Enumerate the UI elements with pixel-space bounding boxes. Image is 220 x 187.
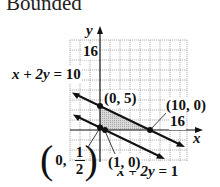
equation-eq: = <box>53 66 62 82</box>
point-label-10-0: (10, 0) <box>166 97 206 114</box>
equation-eq: = <box>158 163 167 179</box>
equation-lhs: x + 2y <box>12 66 50 82</box>
point-1-0 <box>102 127 108 133</box>
y-axis-label: y <box>86 22 93 39</box>
y-tick-label: 16 <box>82 43 99 60</box>
x-axis-label: x <box>193 130 201 147</box>
point-label-0-half: ( 0, 1 2 ) <box>40 140 98 180</box>
equation-label-10: x + 2y = 10 <box>12 66 81 83</box>
point-label-1-0: (1, 0) <box>108 154 141 171</box>
fraction-numerator: 1 <box>76 144 84 160</box>
equation-rhs: 1 <box>171 163 179 179</box>
x-tick-label: 16 <box>169 113 186 130</box>
fraction-denominator: 2 <box>76 161 84 177</box>
point-label-0-5: (0, 5) <box>104 90 137 107</box>
point-0-5 <box>97 103 103 109</box>
equation-rhs: 10 <box>66 66 81 82</box>
point-label-prefix: 0, <box>55 152 66 169</box>
y-axis-arrow-icon <box>97 26 103 34</box>
